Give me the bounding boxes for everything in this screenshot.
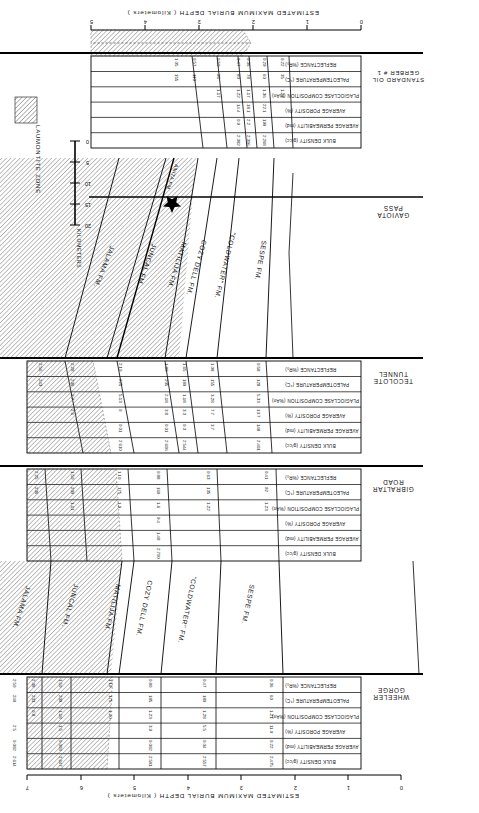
top-axis-tick-5: 5 bbox=[133, 784, 136, 790]
cell-wheeler-col5-paleotemperature: 200 bbox=[58, 695, 63, 702]
cell-wheeler-col4-reflectance: 1.19 bbox=[108, 679, 113, 687]
cell-wheeler-col1-permeability: 0.22 bbox=[269, 741, 274, 749]
cell-tecolote-col2-permeability: 3.7 bbox=[210, 425, 215, 431]
cell-gibraltar-col6-reflectance: 2.25 bbox=[34, 471, 39, 479]
top-axis-tick-3: 3 bbox=[240, 784, 243, 790]
locality-label-wheeler-gorge: WHEELER GORGE bbox=[365, 686, 417, 701]
cell-standard-col3-porosity: 18.1 bbox=[246, 104, 251, 112]
bottom-axis-tick-0: 0 bbox=[360, 18, 363, 24]
cell-standard-col4-plagioclase: 1-22 bbox=[236, 89, 241, 98]
cell-wheeler-col5-plagioclase: 1-18 bbox=[58, 710, 63, 719]
cell-standard-col5-paleotemperature: 95 bbox=[216, 74, 221, 79]
legend-swatch bbox=[15, 97, 37, 123]
cell-tecolote-col1-reflectance: 0.58 bbox=[256, 363, 261, 371]
cell-tecolote-col7-reflectance: 2.56 bbox=[38, 363, 43, 371]
cell-wheeler-col2-porosity: 5.5 bbox=[202, 725, 207, 731]
cell-gibraltar-col3-permeability: 1.48 bbox=[156, 533, 161, 541]
cell-standard-col2-bulk-density: 2.268 bbox=[262, 135, 267, 146]
cell-standard-col5-plagioclase: 1-17 bbox=[216, 89, 221, 98]
cell-tecolote-col4-permeability: 0.01 bbox=[164, 425, 169, 433]
cell-wheeler-col3-bulk-density: 2.581 bbox=[148, 756, 153, 767]
bottom-axis-tick-2: 2 bbox=[252, 18, 255, 24]
cell-standard-col2-paleotemperature: 60 bbox=[262, 74, 267, 79]
row-label-bulk-density-gibraltar: BULK DENSITY (g/cc) bbox=[285, 552, 359, 557]
cell-standard-col3-bulk-density: 2.306 bbox=[246, 135, 251, 146]
cell-tecolote-col3-porosity: 3.3 bbox=[182, 409, 187, 415]
cell-tecolote-col1-porosity: 13.7 bbox=[256, 409, 261, 417]
cell-tecolote-col4-plagioclase: 2-18 bbox=[164, 394, 169, 403]
cell-gibraltar-col1-plagioclase: 1-23 bbox=[264, 502, 269, 511]
scalebar-tick-15: 15 bbox=[85, 201, 91, 207]
cell-standard-col4-reflectance: 0.47 bbox=[236, 58, 241, 66]
cell-tecolote-col1-plagioclase: 5-33 bbox=[256, 394, 261, 403]
row-label-permeability-standard: AVERAGE PERMEABILITY (md) bbox=[285, 123, 359, 128]
gibraltar-road-grid bbox=[0, 466, 423, 561]
bottom-depth-axis bbox=[91, 25, 361, 43]
cell-tecolote-col3-permeability: 0.3 bbox=[182, 425, 187, 431]
bottom-axis-tick-4: 4 bbox=[144, 18, 147, 24]
row-label-bulk-density-standard: BULK DENSITY (g/cc) bbox=[285, 139, 359, 144]
cell-wheeler-col7-permeability: 0.002 bbox=[12, 741, 17, 752]
cell-wheeler-col3-plagioclase: 1-23 bbox=[148, 710, 153, 719]
tecolote-tunnel-grid bbox=[0, 358, 423, 453]
cell-standard-col6-reflectance: 0.57 bbox=[192, 58, 197, 66]
cell-gibraltar-col1-reflectance: 0.41 bbox=[264, 471, 269, 479]
cell-tecolote-col4-bulk-density: 2.606 bbox=[164, 440, 169, 451]
row-label-porosity-standard: AVERAGE POROSITY (%) bbox=[285, 108, 359, 113]
cell-wheeler-col4-paleotemperature: 175 bbox=[108, 695, 113, 702]
cell-tecolote-col2-paleotemperature: 155 bbox=[210, 379, 215, 386]
cell-tecolote-col2-plagioclase: 3-28 bbox=[210, 394, 215, 403]
cell-tecolote-col1-permeability: 148 bbox=[256, 425, 261, 432]
cell-gibraltar-col3-reflectance: 0.88 bbox=[156, 471, 161, 479]
row-label-bulk-density-tecolote: BULK DENSITY (g/cc) bbox=[285, 444, 359, 449]
row-label-permeability-gibraltar: AVERAGE PERMEABILITY (md) bbox=[285, 536, 359, 541]
bottom-axis-tick-1: 1 bbox=[306, 18, 309, 24]
cell-wheeler-col7-reflectance: 2.50 bbox=[12, 679, 17, 687]
locality-gibraltar-line2: ROAD bbox=[365, 478, 421, 485]
cell-wheeler-col1-reflectance: 0.36 bbox=[269, 679, 274, 687]
locality-label-gibraltar-road: GIBRALTAR ROAD bbox=[365, 478, 421, 493]
cell-tecolote-col1-paleotemperature: 128 bbox=[256, 379, 261, 386]
cell-wheeler-col2-plagioclase: 1-28 bbox=[202, 710, 207, 719]
bottom-axis-title: ESTIMATED MAXIMUM BURIAL DEPTH ( Kilomet… bbox=[127, 10, 319, 17]
cell-wheeler-col2-bulk-density: 2.557 bbox=[202, 756, 207, 767]
cell-standard-col2-porosity: 22.1 bbox=[262, 104, 267, 112]
cell-gibraltar-col4-plagioclase: 1-9 bbox=[117, 502, 122, 508]
cell-standard-col2-permeability: 190 bbox=[262, 120, 267, 127]
cell-tecolote-col6-reflectance: 2.28 bbox=[70, 363, 75, 371]
top-axis-title: ESTIMATED MAXIMUM BURIAL DEPTH ( Kilomet… bbox=[107, 793, 299, 800]
cell-tecolote-col6-paleotemperature: 236 bbox=[70, 379, 75, 386]
top-axis-tick-6: 6 bbox=[80, 784, 83, 790]
cell-gibraltar-col3-porosity: 9.4 bbox=[156, 517, 161, 523]
cell-wheeler-col6-plagioclase: 0-8 bbox=[31, 710, 36, 716]
cell-gibraltar-col3-paleotemperature: 160 bbox=[156, 487, 161, 494]
cell-gibraltar-col5-plagioclase: 1-11 bbox=[70, 502, 75, 510]
cell-wheeler-col5-bulk-density: 2.647 bbox=[58, 756, 63, 767]
geologic-cross-section-figure: ESTIMATED MAXIMUM BURIAL DEPTH ( Kilomet… bbox=[0, 0, 479, 813]
row-label-reflectance-gibraltar: REFLECTANCE (%R₀) bbox=[285, 475, 359, 480]
cell-tecolote-col6-porosity: 2.6 bbox=[70, 409, 75, 415]
figure-rotated-container: ESTIMATED MAXIMUM BURIAL DEPTH ( Kilomet… bbox=[0, 0, 479, 813]
locality-gaviota-line1: GAVIOTA bbox=[365, 212, 421, 219]
cell-standard-col2-reflectance: 0.29 bbox=[262, 58, 267, 66]
cell-standard-col1-paleotemperature: 35 bbox=[280, 74, 285, 79]
top-axis-tick-0: 0 bbox=[400, 784, 403, 790]
cell-gibraltar-col6-paleotemperature: 236 bbox=[34, 487, 39, 494]
cell-wheeler-col6-paleotemperature: 233 bbox=[31, 695, 36, 702]
locality-tecolote-line1: TECOLOTE bbox=[365, 378, 421, 385]
cell-standard-col3-permeability: 2.2 bbox=[246, 120, 251, 126]
cell-gibraltar-col2-paleotemperature: 135 bbox=[206, 487, 211, 494]
cell-standard-col7-reflectance: 1.05 bbox=[174, 58, 179, 66]
row-label-porosity-tecolote: AVERAGE POROSITY (%) bbox=[285, 413, 359, 418]
row-label-paleotemp-wheeler: PALEOTEMPERATURE (°C) bbox=[285, 698, 359, 703]
cell-wheeler-col4-plagioclase: 1-20 bbox=[108, 710, 113, 719]
cell-tecolote-col2-porosity: 7.7 bbox=[210, 409, 215, 415]
scalebar-tick-5: 5 bbox=[86, 159, 89, 165]
cell-gibraltar-col3-plagioclase: 1-6 bbox=[156, 502, 161, 508]
cell-gibraltar-col1-paleotemperature: 92 bbox=[264, 487, 269, 492]
row-label-porosity-gibraltar: AVERAGE POROSITY (%) bbox=[285, 521, 359, 526]
cell-tecolote-col4-reflectance: 1.80 bbox=[164, 363, 169, 371]
cell-tecolote-col4-porosity: 3.8 bbox=[164, 409, 169, 415]
cell-wheeler-col5-porosity: 1.5 bbox=[58, 725, 63, 731]
cell-wheeler-col3-permeability: 0.002 bbox=[148, 741, 153, 752]
